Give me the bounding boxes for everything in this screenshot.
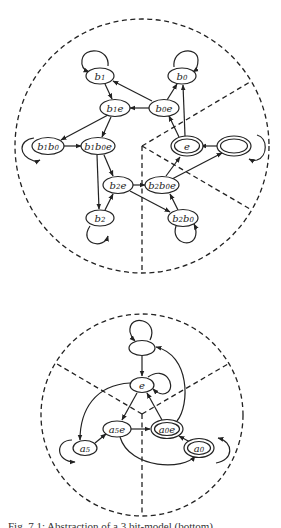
- bottom-node-a0-accepting: a0: [184, 439, 214, 458]
- bottom-node-initial: [129, 341, 155, 356]
- top-node-b2b0e: b2b0e: [145, 177, 179, 194]
- top-node-b2e: b2e: [103, 177, 133, 194]
- top-diagram: b1 b0 b1e b0e b1b0 b1b0e e: [15, 19, 269, 273]
- top-node-b2b0: b2b0: [168, 210, 198, 227]
- top-node-e-accepting: e: [171, 136, 203, 156]
- bottom-diagram: e a5e a0e a5 a0: [41, 314, 243, 516]
- top-node-b0e: b0e: [149, 100, 179, 117]
- bottom-node-a0e-accepting: a0e: [151, 420, 183, 439]
- top-node-b1: b1: [86, 68, 114, 84]
- top-node-b2: b2: [86, 210, 114, 226]
- bottom-node-a5e: a5e: [103, 421, 131, 437]
- figure-caption: Fig. 7.1: Abstraction of a 3 bit-model (…: [8, 519, 224, 528]
- bottom-node-a5: a5: [73, 441, 97, 456]
- figure-canvas: b1 b0 b1e b0e b1b0 b1b0e e: [0, 0, 281, 528]
- top-node-b0: b0: [168, 68, 196, 84]
- top-node-initial-accepting: [217, 136, 251, 156]
- node-label: b2b0e: [148, 180, 176, 192]
- node-label: e: [139, 380, 145, 391]
- top-node-b1e: b1e: [100, 100, 130, 117]
- top-node-b1b0: b1b0: [32, 138, 64, 155]
- node-label: b1b0e: [84, 141, 112, 153]
- bottom-node-e: e: [130, 378, 154, 393]
- top-node-b1b0e: b1b0e: [81, 138, 115, 155]
- node-label: e: [184, 141, 190, 152]
